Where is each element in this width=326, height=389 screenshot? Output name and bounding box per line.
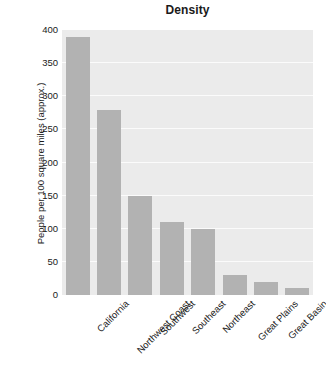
gridline [62, 62, 313, 63]
y-tick-label: 0 [8, 290, 58, 300]
y-tick-label: 50 [8, 257, 58, 267]
bar [254, 282, 278, 295]
bar [66, 37, 90, 295]
y-tick-label: 200 [8, 158, 58, 168]
chart-title: Density [62, 3, 313, 17]
x-tick-label: California [94, 298, 130, 334]
bar [128, 196, 152, 295]
y-tick-label: 300 [8, 91, 58, 101]
y-tick-label: 150 [8, 191, 58, 201]
bar [223, 275, 247, 295]
gridline [62, 95, 313, 96]
y-tick-label: 250 [8, 124, 58, 134]
plot-area [62, 30, 313, 295]
x-axis-tick-labels: CaliforniaNorthwest CoastSouthwestSouthe… [62, 295, 313, 389]
bar [285, 288, 309, 295]
density-bar-chart: Density People per 100 square miles (app… [0, 0, 326, 389]
bar [160, 222, 184, 295]
y-tick-label: 100 [8, 224, 58, 234]
y-tick-label: 400 [8, 25, 58, 35]
y-axis-tick-labels: 050100150200250300350400 [6, 30, 58, 295]
y-tick-label: 350 [8, 58, 58, 68]
bar [97, 110, 121, 296]
bar [191, 229, 215, 295]
